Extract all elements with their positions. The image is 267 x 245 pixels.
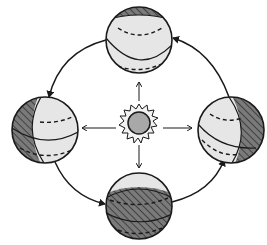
diagram-canvas [0,0,267,245]
orbit-arc-right-to-top [173,38,229,97]
globe-left [0,90,78,170]
globe-bottom [100,173,178,245]
orbit-arc-top-to-left [49,40,106,97]
sun [119,104,158,143]
orbit-arc-left-to-bottom [55,162,105,204]
globe-top [100,0,178,73]
globe-right [198,90,267,170]
sun-core-icon [128,112,150,134]
orbit-diagram [0,0,267,245]
orbit-arc-bottom-to-right [172,160,224,202]
